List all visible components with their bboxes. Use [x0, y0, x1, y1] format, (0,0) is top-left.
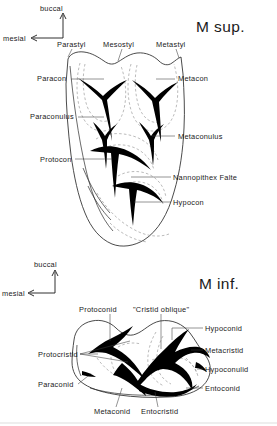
upper-hypocon-text: Hypocon [173, 198, 204, 207]
lower-metaconid-text: Metaconid [94, 407, 130, 416]
lower-metacristid-text: Metacristid [205, 346, 243, 355]
lower-protocristid-text: Protocristid [38, 350, 78, 359]
upper-molar-group: buccal mesial M sup. [3, 4, 245, 246]
upper-metaconulus-text: Metaconulus [178, 132, 223, 141]
lower-compass: buccal mesial [2, 260, 58, 298]
lower-molar-group: buccal mesial M inf. Protoconid [2, 260, 248, 416]
molar-terminology-figure: buccal mesial M sup. [0, 0, 277, 426]
upper-compass-buccal-label: buccal [40, 4, 63, 13]
lower-compass-buccal-label: buccal [34, 260, 57, 269]
upper-molar-title: M sup. [196, 18, 245, 35]
lower-entocristid-text: Entocristid [141, 407, 178, 416]
upper-metacon-text: Metacon [178, 74, 208, 83]
lower-molar-title: M inf. [199, 275, 239, 292]
upper-metastyl-leader [176, 49, 179, 58]
upper-nannopithex-text: Nannopithex Falte [173, 173, 237, 182]
upper-mesostyl-text: Mesostyl [103, 40, 134, 49]
upper-paraconulus-text: Paraconulus [30, 112, 74, 121]
upper-protocon-text: Protocon [40, 155, 72, 164]
lower-compass-mesial-label: mesial [2, 289, 25, 298]
lower-entoconid-text: Entoconid [205, 384, 240, 393]
upper-compass-mesial-label: mesial [3, 34, 26, 43]
upper-paracon-text: Paracon [37, 74, 66, 83]
lower-protoconid-text: Protoconid [79, 305, 117, 314]
upper-mesostyl-leader [118, 49, 122, 61]
upper-metastyl-text: Metastyl [156, 40, 186, 49]
upper-label-metastyl: Metastyl [156, 40, 186, 58]
lower-cristid-oblique-text: "Cristid oblique" [133, 305, 189, 314]
lower-paraconid-text: Paraconid [38, 380, 74, 389]
upper-parastyl-text: Parastyl [57, 40, 86, 49]
upper-compass: buccal mesial [3, 4, 66, 43]
lower-label-hypoconulid: Hypoconulid [197, 365, 248, 374]
lower-hypoconulid-text: Hypoconulid [205, 365, 248, 374]
lower-hypoconid-text: Hypoconid [205, 324, 242, 333]
